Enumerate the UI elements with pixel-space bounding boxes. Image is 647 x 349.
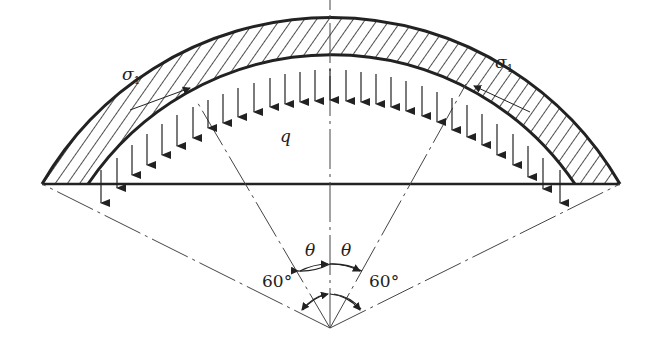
- sigma-label-left: σ1: [122, 66, 141, 86]
- angle-label-left: 60°: [262, 273, 292, 290]
- angle-label-right: 60°: [369, 273, 399, 290]
- sigma-label-right: σ1: [495, 54, 514, 74]
- shell-wall: [0, 0, 647, 200]
- theta-label-right: θ: [341, 242, 351, 259]
- diagram-canvas: [0, 0, 647, 349]
- load-label-q: q: [280, 128, 291, 145]
- shell-diagram: σ1 σ1 q θ θ 60° 60°: [0, 0, 647, 349]
- theta-label-left: θ: [305, 242, 315, 259]
